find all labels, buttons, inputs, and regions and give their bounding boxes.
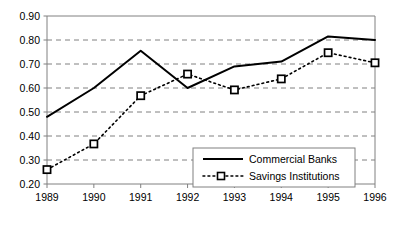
data-point-marker <box>325 49 332 56</box>
data-point-marker <box>137 92 144 99</box>
y-axis-tick-label: 0.20 <box>20 178 41 190</box>
x-axis-labels-group: 19891990199119921993199419951996 <box>35 191 387 203</box>
x-axis-tick-label: 1990 <box>82 191 106 203</box>
data-point-marker <box>231 86 238 93</box>
legend-marker-savings-institutions <box>218 173 225 180</box>
x-axis-tick-label: 1992 <box>176 191 200 203</box>
legend-label-savings-institutions: Savings Institutions <box>249 170 339 182</box>
x-axis-tick-label: 1993 <box>223 191 247 203</box>
data-point-marker <box>184 70 191 77</box>
y-axis-tick-label: 0.80 <box>20 34 41 46</box>
y-axis-tick-label: 0.70 <box>20 58 41 70</box>
line-chart: 0.900.800.700.600.500.400.300.20 1989199… <box>0 0 401 233</box>
chart-legend: Commercial Banks Savings Institutions <box>193 148 355 187</box>
x-axis-tick-label: 1989 <box>35 191 59 203</box>
y-axis-tick-label: 0.50 <box>20 106 41 118</box>
data-point-marker <box>90 140 97 147</box>
legend-label-commercial-banks: Commercial Banks <box>249 153 337 165</box>
y-axis-ticks-group <box>44 16 48 184</box>
y-axis-tick-label: 0.40 <box>20 130 41 142</box>
x-axis-tick-label: 1996 <box>363 191 387 203</box>
data-point-marker <box>43 166 50 173</box>
x-axis-tick-label: 1995 <box>316 191 340 203</box>
y-axis-tick-label: 0.60 <box>20 82 41 94</box>
y-axis-labels-group: 0.900.800.700.600.500.400.300.20 <box>20 10 41 190</box>
data-point-marker <box>278 75 285 82</box>
chart-container: 0.900.800.700.600.500.400.300.20 1989199… <box>0 0 401 233</box>
x-axis-tick-label: 1994 <box>270 191 294 203</box>
y-axis-tick-label: 0.90 <box>20 10 41 22</box>
y-axis-tick-label: 0.30 <box>20 154 41 166</box>
x-axis-tick-label: 1991 <box>129 191 153 203</box>
data-point-marker <box>371 59 378 66</box>
